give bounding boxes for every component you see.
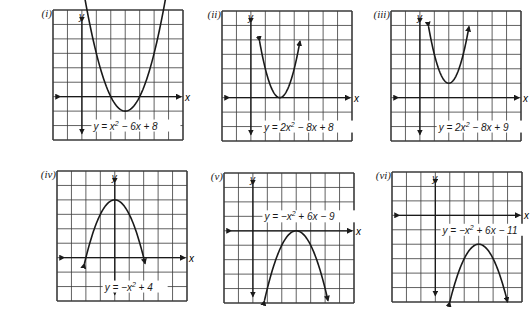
graph-panel-3: (iii)xyy = 2x2 − 8x + 9 — [391, 11, 521, 141]
svg-text:y = −x2 + 6x − 11: y = −x2 + 6x − 11 — [442, 224, 518, 236]
x-axis-label: x — [184, 92, 191, 103]
coordinate-grid: xyy = 2x2 − 8x + 9 — [391, 11, 521, 141]
y-axis-label: y — [416, 12, 423, 23]
panel-label: (iii) — [374, 8, 391, 20]
coordinate-grid: xyy = −x2 + 6x − 9 — [224, 173, 354, 303]
panel-label: (ii) — [208, 8, 221, 20]
equation-label: y = x2 − 6x + 8 — [91, 120, 180, 132]
graph-panel-6: (vi)xyy = −x2 + 6x − 11 — [392, 172, 522, 302]
panel-label: (i) — [42, 7, 52, 19]
coordinate-grid: xyy = 2x2 − 8x + 8 — [222, 11, 352, 141]
y-axis-label: y — [111, 172, 118, 183]
svg-text:y = 2x2 − 8x + 9: y = 2x2 − 8x + 9 — [438, 121, 509, 133]
panel-label: (vi) — [376, 169, 391, 181]
x-axis-label: x — [523, 210, 530, 221]
equation-label: y = −x2 + 6x − 9 — [262, 210, 357, 222]
y-axis-label: y — [247, 12, 254, 23]
coordinate-grid: xyy = −x2 + 4 — [57, 171, 187, 301]
panel-label: (iv) — [41, 168, 56, 180]
equation-label: y = 2x2 − 8x + 8 — [262, 121, 357, 133]
coordinate-grid: xyy = x2 − 6x + 8 — [53, 10, 183, 140]
graph-panel-2: (ii)xyy = 2x2 − 8x + 8 — [222, 11, 352, 141]
x-axis-label: x — [353, 93, 360, 104]
x-axis-label: x — [522, 93, 529, 104]
x-axis-label: x — [355, 226, 362, 237]
y-axis-label: y — [249, 174, 256, 185]
graph-panel-1: (i)xyy = x2 − 6x + 8 — [53, 10, 183, 140]
panel-label: (v) — [211, 170, 223, 182]
svg-text:y = −x2 + 6x − 9: y = −x2 + 6x − 9 — [263, 210, 335, 222]
svg-text:y = x2 − 6x + 8: y = x2 − 6x + 8 — [92, 120, 158, 132]
svg-text:y = −x2 + 4: y = −x2 + 4 — [104, 281, 154, 293]
equation-label: y = −x2 + 4 — [103, 281, 168, 293]
graph-panel-5: (v)xyy = −x2 + 6x − 9 — [224, 173, 354, 303]
equation-label: y = 2x2 − 8x + 9 — [437, 121, 532, 133]
y-axis-label: y — [431, 173, 438, 184]
coordinate-grid: xyy = −x2 + 6x − 11 — [392, 172, 522, 302]
graph-panel-4: (iv)xyy = −x2 + 4 — [57, 171, 187, 301]
equation-label: y = −x2 + 6x − 11 — [441, 224, 532, 236]
y-axis-label: y — [78, 11, 85, 22]
svg-text:y = 2x2 − 8x + 8: y = 2x2 − 8x + 8 — [263, 121, 334, 133]
x-axis-label: x — [188, 253, 195, 264]
